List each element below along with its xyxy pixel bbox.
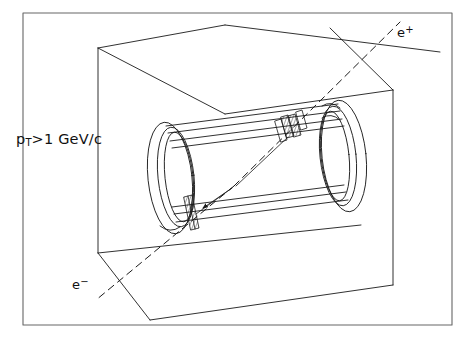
momentum-symbol: p <box>16 131 25 147</box>
box-edge-top-left-diagonal <box>98 48 225 114</box>
positron-symbol: e <box>397 25 405 40</box>
detector-wireframe-drawing <box>0 0 462 338</box>
track-positron-line <box>234 22 400 186</box>
cylindrical-tracking-chamber <box>142 98 371 236</box>
box-edge-bottom-front <box>150 285 393 320</box>
particle-tracks <box>96 22 400 300</box>
momentum-unit: GeV/c <box>58 131 102 147</box>
cylinder-right-end-outer-ring <box>316 98 371 214</box>
box-edge-top-front <box>225 90 393 114</box>
track-electron-line <box>96 186 234 300</box>
track-electron-label: e− <box>72 276 89 292</box>
positron-charge-sign: + <box>405 24 414 35</box>
box-edge-top-right-diagonal <box>330 28 393 90</box>
box-edge-bottom-left-diagonal <box>98 253 150 320</box>
detector-event-display-figure: pT>1 GeV/c e+ e− <box>0 0 462 338</box>
track-positron-label: e+ <box>397 24 414 40</box>
hit-leader-upper <box>236 137 288 186</box>
hit-cluster-upper <box>275 110 307 142</box>
bounding-box-volume <box>98 25 440 320</box>
box-edge-top-left-back <box>98 25 225 48</box>
momentum-cut-label: pT>1 GeV/c <box>16 131 102 148</box>
electron-symbol: e <box>72 277 80 292</box>
electron-charge-sign: − <box>80 276 89 287</box>
hit-pointer-arrow <box>203 188 232 208</box>
momentum-relation: > <box>32 131 44 147</box>
box-edge-bottom-back <box>98 225 361 253</box>
momentum-value: 1 <box>44 131 53 147</box>
